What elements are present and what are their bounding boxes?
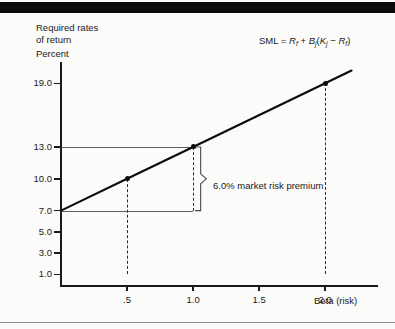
- data-point-dropline: [325, 83, 326, 274]
- y-axis-tick: [54, 252, 61, 253]
- y-axis-tick-label-text: 19.0: [24, 77, 52, 88]
- x-axis-tick-label: 1.0: [178, 294, 208, 305]
- x-axis-tick-label: 2.0: [310, 294, 340, 305]
- formula-rf-subscript: f: [296, 40, 298, 47]
- data-point-marker: [125, 176, 130, 181]
- formula-k-subscript: j: [326, 40, 328, 47]
- y-axis-tick-label: 3.0: [22, 247, 52, 259]
- bottom-rule: [0, 322, 395, 323]
- formula-beta-subscript: j: [315, 40, 317, 47]
- y-axis-unit-label: Percent: [36, 48, 69, 60]
- x-axis-tick: [192, 285, 193, 291]
- y-axis-title: Required rates of return: [36, 22, 98, 45]
- y-axis-tick-label-text: 10.0: [24, 173, 52, 184]
- x-axis-tick-label: 1.5: [244, 294, 274, 305]
- formula-plus: +: [298, 35, 309, 46]
- x-axis-tick: [126, 285, 127, 291]
- y-axis-tick-label-text: 7.0: [24, 205, 52, 216]
- y-axis-tick-label: 1.0: [22, 268, 52, 280]
- y-axis-tick: [54, 146, 61, 147]
- y-axis-tick: [54, 274, 61, 275]
- x-axis-line: [60, 285, 378, 287]
- sml-chart-figure: Required rates of return Percent Beta (r…: [0, 0, 395, 329]
- data-point-dropline: [193, 147, 194, 211]
- market-risk-premium-brace: [195, 147, 206, 211]
- y-axis-tick: [54, 83, 61, 84]
- y-axis-tick-label-text: 3.0: [24, 247, 52, 258]
- sml-formula-annotation: SML = Rf + Bj(Kj − Rf): [259, 35, 350, 46]
- formula-prefix: SML =: [259, 35, 289, 46]
- x-axis-tick: [258, 285, 259, 291]
- formula-rf: R: [289, 35, 296, 46]
- x-axis-tick: [324, 285, 325, 291]
- y-axis-tick-label-text: 13.0: [24, 141, 52, 152]
- y-axis-tick-label-text: 5.0: [24, 226, 52, 237]
- formula-close-paren: ): [347, 35, 350, 46]
- y-axis-title-line2: of return: [36, 34, 71, 45]
- y-axis-title-line1: Required rates: [36, 22, 98, 33]
- y-axis-tick: [54, 178, 61, 179]
- horizontal-guide-line: [61, 147, 193, 148]
- x-axis-tick-label: .5: [112, 294, 142, 305]
- y-axis-tick-label: 19.0: [22, 77, 52, 89]
- top-decorative-bar: [0, 2, 395, 13]
- data-point-marker: [191, 144, 196, 149]
- formula-minus: −: [328, 35, 339, 46]
- y-axis-tick: [54, 210, 61, 211]
- y-axis-tick: [54, 231, 61, 232]
- data-point-marker: [323, 81, 328, 86]
- y-axis-tick-label: 10.0: [22, 173, 52, 185]
- market-risk-premium-annotation: 6.0% market risk premium: [213, 180, 323, 191]
- data-point-dropline: [127, 179, 128, 275]
- y-axis-tick-label: 13.0: [22, 141, 52, 153]
- y-axis-tick-label: 5.0: [22, 226, 52, 238]
- y-axis-tick-label-text: 1.0: [24, 268, 52, 279]
- y-axis-tick-label: 7.0: [22, 205, 52, 217]
